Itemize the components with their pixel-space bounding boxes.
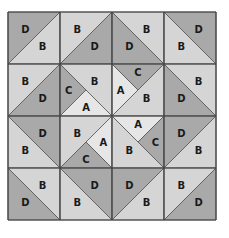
piece-label-b: B	[195, 76, 203, 87]
piece-label-d: D	[195, 24, 203, 35]
piece-label-b: B	[22, 76, 30, 87]
piece-label-c: C	[82, 154, 89, 165]
piece-label-d: D	[125, 41, 133, 52]
piece-label-d: D	[177, 93, 185, 104]
quilt-diagram: DBBDBDDBBDBCAACBBDDBBACACBDBBDDBDBBD	[0, 0, 229, 238]
piece-label-b: B	[39, 41, 47, 52]
piece-label-b: B	[74, 24, 82, 35]
piece-label-d: D	[91, 41, 99, 52]
piece-label-b: B	[74, 197, 82, 208]
piece-label-b: B	[143, 197, 151, 208]
piece-label-d: D	[39, 128, 47, 139]
piece-label-d: D	[21, 197, 29, 208]
piece-label-b: B	[91, 76, 99, 87]
piece-label-c: C	[134, 67, 141, 78]
piece-label-a: A	[117, 85, 125, 96]
piece-label-b: B	[126, 145, 134, 156]
piece-label-a: A	[134, 119, 142, 130]
piece-label-b: B	[22, 145, 30, 156]
piece-label-c: C	[65, 85, 72, 96]
piece-label-d: D	[177, 128, 185, 139]
piece-label-a: A	[99, 137, 107, 148]
piece-label-a: A	[82, 102, 90, 113]
piece-label-b: B	[39, 180, 47, 191]
piece-label-d: D	[21, 24, 29, 35]
piece-label-d: D	[91, 180, 99, 191]
piece-label-b: B	[195, 145, 203, 156]
piece-label-b: B	[178, 41, 186, 52]
piece-label-c: C	[152, 137, 159, 148]
piece-label-b: B	[143, 24, 151, 35]
piece-label-d: D	[39, 93, 47, 104]
piece-label-d: D	[195, 197, 203, 208]
piece-label-b: B	[178, 180, 186, 191]
piece-label-b: B	[74, 128, 82, 139]
piece-label-b: B	[143, 93, 151, 104]
piece-label-d: D	[125, 180, 133, 191]
